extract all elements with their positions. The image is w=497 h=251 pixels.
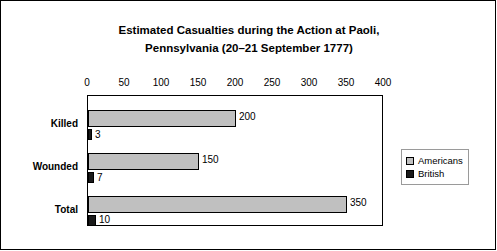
legend-item-americans[interactable]: Americans (406, 154, 463, 167)
x-tick-200: 200 (220, 77, 250, 88)
bar-british-wounded[interactable] (88, 172, 94, 183)
x-tick-150: 150 (183, 77, 213, 88)
category-label-killed: Killed (51, 118, 78, 129)
x-tick-300: 300 (294, 77, 324, 88)
legend-item-british[interactable]: British (406, 167, 463, 180)
bar-value-british-total: 10 (99, 214, 110, 225)
bar-value-americans-wounded: 150 (202, 154, 219, 165)
x-tick-400: 400 (368, 77, 398, 88)
chart-title-line-2: Pennsylvania (20–21 September 1777) (41, 39, 457, 57)
category-label-total: Total (55, 204, 78, 215)
chart-title-line-1: Estimated Casualties during the Action a… (41, 21, 457, 39)
bar-americans-total[interactable] (88, 196, 347, 213)
bar-british-killed[interactable] (88, 129, 92, 140)
x-tick-100: 100 (146, 77, 176, 88)
category-label-wounded: Wounded (33, 161, 78, 172)
x-tick-50: 50 (109, 77, 139, 88)
bar-value-americans-killed: 200 (239, 111, 256, 122)
legend-label-british: British (418, 168, 444, 179)
chart-legend: Americans British (401, 149, 469, 185)
bar-americans-wounded[interactable] (88, 153, 199, 170)
bar-value-americans-total: 350 (350, 197, 367, 208)
legend-label-americans: Americans (418, 155, 463, 166)
chart-container: Estimated Casualties during the Action a… (0, 0, 496, 250)
x-tick-250: 250 (257, 77, 287, 88)
chart-title: Estimated Casualties during the Action a… (41, 21, 457, 57)
bar-british-total[interactable] (88, 215, 96, 226)
bar-americans-killed[interactable] (88, 110, 236, 127)
bar-value-british-wounded: 7 (97, 172, 103, 183)
legend-swatch-icon-british (406, 170, 414, 178)
legend-swatch-icon-americans (406, 157, 414, 165)
x-axis-tick-labels: 0 50 100 150 200 250 300 350 400 (1, 77, 497, 91)
x-tick-0: 0 (72, 77, 102, 88)
plot-area: 200 3 150 7 350 10 (87, 95, 383, 226)
x-tick-350: 350 (331, 77, 361, 88)
bar-value-british-killed: 3 (95, 129, 101, 140)
